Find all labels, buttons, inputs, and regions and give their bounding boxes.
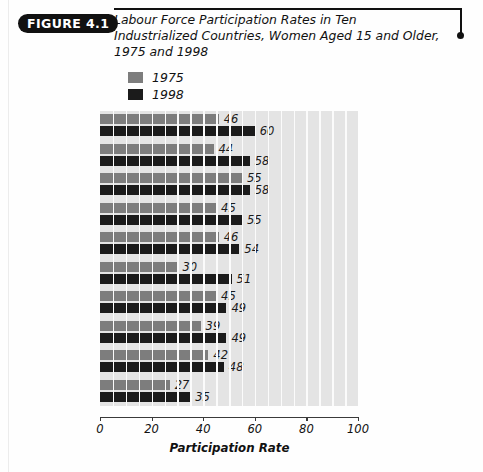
axis-tick bbox=[358, 417, 359, 421]
bar-1975 bbox=[100, 321, 201, 331]
grid-line bbox=[165, 111, 167, 406]
grid-line bbox=[255, 111, 257, 406]
bar-value-label: 51 bbox=[237, 272, 252, 286]
axis-tick bbox=[203, 417, 204, 421]
axis-tick bbox=[152, 417, 153, 421]
bar-value-label: 44 bbox=[219, 142, 234, 156]
bar-1998 bbox=[100, 333, 226, 343]
bar-value-label: 54 bbox=[244, 242, 259, 256]
x-axis-line bbox=[100, 417, 359, 418]
bar-1975 bbox=[100, 173, 242, 183]
bar-chart: United States4660Canada4458Sweden5558Aus… bbox=[0, 0, 483, 472]
bar-1975 bbox=[100, 232, 219, 242]
axis-tick-label: 80 bbox=[299, 422, 314, 436]
grid-line bbox=[203, 111, 205, 406]
bar-1998 bbox=[100, 244, 239, 254]
grid-line bbox=[294, 111, 296, 406]
axis-tick bbox=[306, 417, 307, 421]
bar-1975 bbox=[100, 144, 214, 154]
bar-1998 bbox=[100, 303, 226, 313]
grid-line bbox=[332, 111, 334, 406]
bar-1975 bbox=[100, 114, 219, 124]
x-axis-title: Participation Rate bbox=[100, 441, 359, 455]
grid-line bbox=[113, 111, 115, 406]
axis-tick-label: 60 bbox=[247, 422, 262, 436]
bar-1998 bbox=[100, 215, 242, 225]
bar-value-label: 46 bbox=[224, 112, 239, 126]
grid-line bbox=[216, 111, 218, 406]
bar-1975 bbox=[100, 350, 208, 360]
axis-tick-label: 0 bbox=[96, 422, 103, 436]
bar-value-label: 49 bbox=[231, 301, 246, 315]
bar-1975 bbox=[100, 291, 216, 301]
grid-line bbox=[139, 111, 141, 406]
axis-tick-label: 20 bbox=[144, 422, 159, 436]
grid-line bbox=[190, 111, 192, 406]
bar-value-label: 39 bbox=[206, 319, 221, 333]
grid-line bbox=[152, 111, 154, 406]
grid-line bbox=[306, 111, 308, 406]
grid-line bbox=[319, 111, 321, 406]
bar-value-label: 49 bbox=[231, 331, 246, 345]
axis-tick bbox=[100, 417, 101, 421]
bar-1998 bbox=[100, 362, 224, 372]
bar-1998 bbox=[100, 185, 250, 195]
grid-line bbox=[229, 111, 231, 406]
grid-line bbox=[345, 111, 347, 406]
bar-value-label: 46 bbox=[224, 230, 239, 244]
grid-line bbox=[268, 111, 270, 406]
grid-line bbox=[177, 111, 179, 406]
axis-tick-label: 100 bbox=[347, 422, 369, 436]
bar-1998 bbox=[100, 156, 250, 166]
plot-area: United States4660Canada4458Sweden5558Aus… bbox=[100, 111, 358, 406]
grid-line bbox=[242, 111, 244, 406]
bar-1975 bbox=[100, 203, 216, 213]
grid-line bbox=[281, 111, 283, 406]
axis-tick-label: 40 bbox=[196, 422, 211, 436]
axis-tick bbox=[255, 417, 256, 421]
grid-line bbox=[126, 111, 128, 406]
bar-1975 bbox=[100, 380, 170, 390]
